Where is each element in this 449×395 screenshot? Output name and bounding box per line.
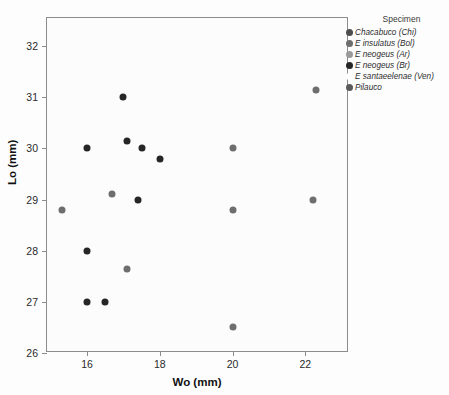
data-point xyxy=(124,137,131,144)
legend-items: Chacabuco (Chi)E insulatus (Bol)E neogeu… xyxy=(346,27,449,93)
legend-item-label: E santaeelenae (Ven) xyxy=(355,71,434,82)
data-point xyxy=(84,298,91,305)
x-axis-title: Wo (mm) xyxy=(46,376,348,388)
legend-item[interactable]: Chacabuco (Chi) xyxy=(346,27,449,38)
legend-item-label: Chacabuco (Chi) xyxy=(355,27,416,38)
x-axis-tick-label: 20 xyxy=(227,358,239,370)
y-axis-tick-label: 28 xyxy=(26,245,38,257)
legend-item[interactable]: E neogeus (Br) xyxy=(346,60,449,71)
data-point xyxy=(84,145,91,152)
data-point xyxy=(156,155,163,162)
x-axis-tick xyxy=(87,351,88,356)
y-axis-title: Lo (mm) xyxy=(6,140,18,185)
plot-frame: 2627282930313216182022 xyxy=(46,17,348,352)
x-axis-tick-label: 18 xyxy=(154,358,166,370)
legend-item-label: E neogeus (Ar) xyxy=(355,49,410,60)
x-axis-tick xyxy=(233,351,234,356)
data-point xyxy=(58,206,65,213)
plot-area xyxy=(47,18,347,351)
legend-item[interactable]: E neogeus (Ar) xyxy=(346,49,449,60)
scatter-plot-figure: Lo (mm) Wo (mm) 2627282930313216182022 S… xyxy=(0,0,449,395)
data-point xyxy=(309,196,316,203)
legend-item[interactable]: E insulatus (Bol) xyxy=(346,38,449,49)
legend-item-label: E neogeus (Br) xyxy=(355,60,410,71)
y-axis-tick xyxy=(42,353,47,354)
x-axis-tick xyxy=(160,351,161,356)
legend-item-label: E insulatus (Bol) xyxy=(355,38,415,49)
legend-item[interactable]: E santaeelenae (Ven) xyxy=(346,71,449,82)
y-axis-tick-label: 32 xyxy=(26,40,38,52)
legend-item-label: Pilauco xyxy=(355,82,382,93)
legend-marker-icon xyxy=(346,84,353,91)
y-axis-tick-label: 30 xyxy=(26,142,38,154)
y-axis-tick xyxy=(42,148,47,149)
legend-marker-icon xyxy=(346,29,353,36)
legend-title: Specimen xyxy=(346,14,449,24)
data-point xyxy=(84,247,91,254)
data-point xyxy=(109,191,116,198)
y-axis-tick-label: 29 xyxy=(26,194,38,206)
x-axis-tick-label: 16 xyxy=(81,358,93,370)
y-axis-tick-label: 31 xyxy=(26,91,38,103)
y-axis-tick xyxy=(42,302,47,303)
legend-marker-icon xyxy=(346,51,353,58)
y-axis-tick xyxy=(42,200,47,201)
x-axis-tick xyxy=(305,351,306,356)
y-axis-tick xyxy=(42,97,47,98)
legend-item[interactable]: Pilauco xyxy=(346,82,449,93)
legend-marker-icon xyxy=(346,62,353,69)
y-axis-tick-label: 27 xyxy=(26,296,38,308)
data-point xyxy=(138,145,145,152)
data-point xyxy=(120,94,127,101)
data-point xyxy=(124,265,131,272)
legend-marker-icon xyxy=(346,73,353,80)
data-point xyxy=(102,298,109,305)
y-axis-tick-label: 26 xyxy=(26,347,38,359)
data-point xyxy=(229,206,236,213)
y-axis-tick xyxy=(42,251,47,252)
legend-marker-icon xyxy=(346,40,353,47)
y-axis-tick xyxy=(42,46,47,47)
data-point xyxy=(229,145,236,152)
data-point xyxy=(229,324,236,331)
legend: Specimen Chacabuco (Chi)E insulatus (Bol… xyxy=(346,14,449,93)
data-point xyxy=(313,86,320,93)
data-point xyxy=(134,196,141,203)
x-axis-tick-label: 22 xyxy=(299,358,311,370)
